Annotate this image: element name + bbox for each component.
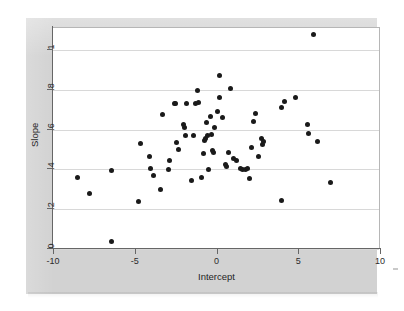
- x-axis-tick: [380, 249, 381, 254]
- y-axis-tick-label: 1: [40, 42, 62, 52]
- data-point: [209, 132, 214, 137]
- data-point: [199, 175, 204, 180]
- gridline: [53, 209, 379, 210]
- data-point: [245, 166, 250, 171]
- gridline: [53, 50, 379, 51]
- data-point: [328, 180, 333, 185]
- data-point: [201, 151, 206, 156]
- data-point: [220, 115, 225, 120]
- data-point: [315, 139, 320, 144]
- data-point: [279, 105, 284, 110]
- data-point: [215, 109, 220, 114]
- data-point: [251, 119, 256, 124]
- y-axis-tick-label: .6: [40, 122, 62, 132]
- data-point: [184, 101, 189, 106]
- x-axis-title: Intercept: [53, 271, 380, 282]
- data-point: [167, 158, 172, 163]
- data-point: [191, 133, 196, 138]
- data-point: [293, 95, 298, 100]
- data-point: [174, 140, 179, 145]
- x-axis-tick-label: 10: [365, 256, 395, 266]
- data-point: [305, 122, 310, 127]
- data-point: [311, 32, 316, 37]
- x-axis-tick: [135, 249, 136, 254]
- x-axis-tick-label: 5: [283, 256, 313, 266]
- data-point: [136, 199, 141, 204]
- data-point: [158, 187, 163, 192]
- data-point: [173, 101, 178, 106]
- y-axis-title: Slope: [28, 108, 42, 168]
- data-point: [217, 73, 222, 78]
- data-point: [176, 147, 181, 152]
- data-point: [217, 95, 222, 100]
- data-point: [306, 131, 311, 136]
- gridline: [53, 90, 379, 91]
- figure-shadow: [28, 292, 378, 298]
- y-axis-tick-label-text: .4: [46, 163, 56, 171]
- y-axis-tick-label: .2: [40, 201, 62, 211]
- y-axis-tick-label-text: .8: [46, 83, 56, 91]
- y-axis-line: [52, 26, 53, 249]
- data-point: [253, 111, 258, 116]
- data-point: [247, 176, 252, 181]
- data-point: [195, 88, 200, 93]
- data-point: [109, 168, 114, 173]
- data-point: [189, 178, 194, 183]
- x-axis-tick: [217, 249, 218, 254]
- figure-root: 0.2.4.6.81 -10-50510 Slope Intercept: [0, 0, 404, 311]
- data-point: [75, 175, 80, 180]
- data-point: [206, 167, 211, 172]
- y-axis-tick-label-text: .6: [46, 123, 56, 131]
- data-point: [147, 154, 152, 159]
- data-point: [109, 239, 114, 244]
- gridline: [53, 130, 379, 131]
- data-point: [138, 141, 143, 146]
- data-point: [204, 120, 209, 125]
- x-axis-tick-label: 0: [202, 256, 232, 266]
- data-point: [196, 100, 201, 105]
- x-axis-tick: [298, 249, 299, 254]
- x-axis-tick-label: -5: [120, 256, 150, 266]
- data-point: [249, 145, 254, 150]
- y-axis-tick-label: .4: [40, 161, 62, 171]
- data-point: [282, 99, 287, 104]
- data-point: [256, 154, 261, 159]
- y-axis-tick-label-text: .2: [46, 202, 56, 210]
- data-point: [166, 167, 171, 172]
- scan-speck-artifact: [393, 268, 398, 270]
- y-axis-tick-label: 0: [40, 241, 62, 251]
- data-point: [160, 112, 165, 117]
- y-axis-tick-label-text: 0: [46, 243, 56, 248]
- data-point: [183, 133, 188, 138]
- data-point: [87, 191, 92, 196]
- x-axis-tick: [53, 249, 54, 254]
- y-axis-title-label: Slope: [28, 133, 42, 147]
- gridline: [53, 169, 379, 170]
- data-point: [261, 139, 266, 144]
- data-point: [148, 166, 153, 171]
- scatter-plot-area: [53, 27, 380, 248]
- data-point: [228, 86, 233, 91]
- data-point: [226, 150, 231, 155]
- y-axis-tick-label-text: 1: [46, 44, 56, 49]
- x-axis-tick-label: -10: [38, 256, 68, 266]
- data-point: [151, 173, 156, 178]
- data-point: [234, 158, 239, 163]
- data-point: [211, 150, 216, 155]
- y-axis-tick-label: .8: [40, 82, 62, 92]
- data-point: [224, 164, 229, 169]
- data-point: [208, 114, 213, 119]
- data-point: [279, 198, 284, 203]
